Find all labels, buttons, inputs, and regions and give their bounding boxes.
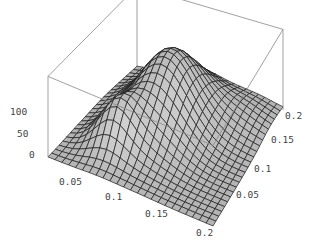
y-tick-label: 0.1: [254, 163, 271, 174]
y-tick-label: 0.2: [285, 110, 302, 121]
x-tick-label: 0.15: [145, 208, 168, 219]
y-tick-label: 0.15: [271, 134, 294, 145]
y-tick-label: 0.05: [236, 189, 259, 200]
z-axis: 100 50 0: [10, 106, 35, 160]
surface-plot: 100 50 0 0.05 0.1 0.15 0.2 0.05 0.1 0.15…: [0, 0, 319, 248]
z-tick-label: 0: [29, 149, 35, 160]
z-tick-label: 100: [10, 106, 27, 117]
z-tick-label: 50: [17, 128, 29, 139]
x-tick-label: 0.05: [59, 176, 82, 187]
x-tick-label: 0.2: [196, 227, 213, 238]
x-tick-label: 0.1: [105, 191, 122, 202]
